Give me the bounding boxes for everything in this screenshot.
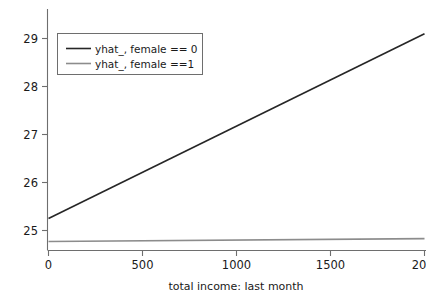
x-axis-title: total income: last month xyxy=(168,280,303,293)
y-axis-ticks xyxy=(42,39,48,231)
y-tick-label-25: 25 xyxy=(23,224,38,238)
series-line-female-1 xyxy=(49,239,425,242)
legend-label-female-0: yhat_, female == 0 xyxy=(95,43,198,56)
x-tick-label-2000: 20 xyxy=(412,258,426,272)
x-tick-label-1500: 1500 xyxy=(316,258,345,272)
y-tick-label-29: 29 xyxy=(23,32,38,46)
x-axis-ticks xyxy=(49,251,425,257)
y-tick-label-27: 27 xyxy=(23,128,38,142)
legend-label-female-1: yhat_, female ==1 xyxy=(95,58,194,71)
y-tick-label-26: 26 xyxy=(23,176,38,190)
line-chart-canvas: 29 28 27 26 25 0 500 1000 1500 20 total … xyxy=(0,0,426,304)
chart-figure: 29 28 27 26 25 0 500 1000 1500 20 total … xyxy=(0,0,426,304)
y-tick-label-28: 28 xyxy=(23,80,38,94)
chart-legend: yhat_, female == 0 yhat_, female ==1 xyxy=(58,34,203,75)
x-tick-label-1000: 1000 xyxy=(222,258,251,272)
x-tick-label-0: 0 xyxy=(45,258,52,272)
x-tick-label-500: 500 xyxy=(132,258,154,272)
